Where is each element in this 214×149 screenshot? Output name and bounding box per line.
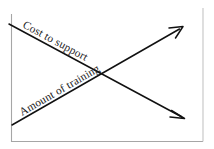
cost-to-support-label: Cost to support <box>21 18 91 63</box>
cost-to-support-arrowhead <box>170 111 185 119</box>
trend-diagram: Cost to support Amount of training <box>0 0 214 149</box>
amount-of-training-line <box>12 29 180 125</box>
amount-of-training-label: Amount of training <box>17 62 102 118</box>
amount-of-training-arrowhead <box>169 27 183 39</box>
diagram-canvas: Cost to support Amount of training <box>0 0 214 149</box>
